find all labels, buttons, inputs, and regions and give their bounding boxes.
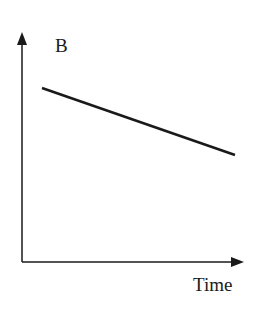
y-axis-arrow-icon	[17, 32, 27, 45]
series-line-b	[42, 88, 235, 155]
chart: B Time	[0, 0, 265, 309]
y-axis-label: B	[55, 35, 68, 56]
x-axis-label: Time	[193, 274, 232, 295]
x-axis-arrow-icon	[231, 257, 244, 267]
